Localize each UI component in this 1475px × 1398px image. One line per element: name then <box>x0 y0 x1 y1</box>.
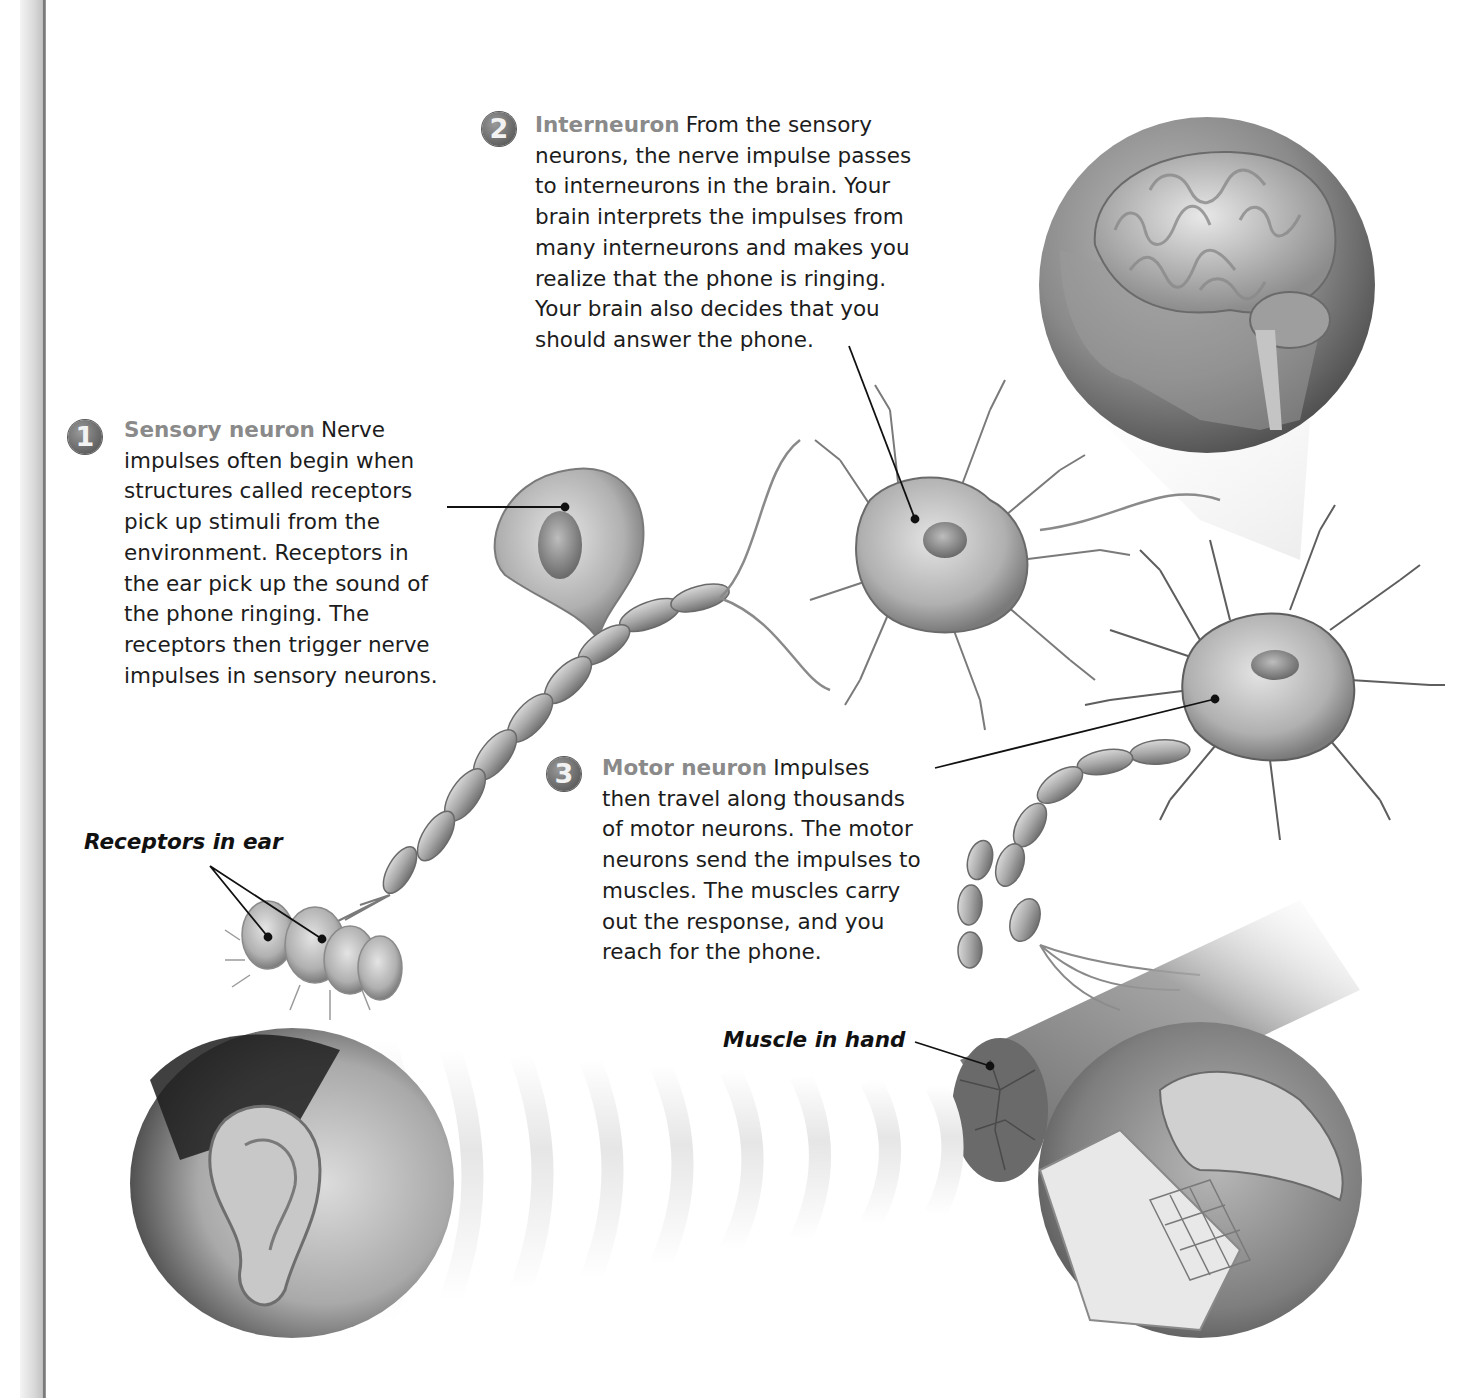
interneuron-first-line: From the sensory <box>686 112 872 137</box>
step-3-badge: 3 <box>547 757 581 791</box>
interneuron-line: should answer the phone. <box>535 325 965 356</box>
receptors-in-ear-label: Receptors in ear <box>84 829 283 854</box>
interneuron-line: many interneurons and makes you <box>535 233 965 264</box>
sensory-first-line: Nerve <box>321 417 385 442</box>
brain-illustration <box>1039 117 1375 560</box>
sensory-line: structures called receptors <box>124 476 464 507</box>
motor-line: neurons send the impulses to <box>602 845 947 876</box>
sensory-line: the ear pick up the sound of <box>124 569 464 600</box>
step-1-badge: 1 <box>68 420 102 454</box>
motor-line: then travel along thousands <box>602 784 947 815</box>
motor-callout-line-1: Motor neuronImpulses <box>602 753 947 784</box>
motor-first-line: Impulses <box>773 755 869 780</box>
sensory-callout-line-1: Sensory neuronNerve <box>124 415 464 446</box>
motor-line: reach for the phone. <box>602 937 947 968</box>
interneuron-term: Interneuron <box>535 112 680 137</box>
ear-receptors-illustration <box>225 901 402 1020</box>
motor-line: of motor neurons. The motor <box>602 814 947 845</box>
interneuron-line: Your brain also decides that you <box>535 294 965 325</box>
interneuron-callout-line-1: InterneuronFrom the sensory <box>535 110 965 141</box>
sensory-line: impulses often begin when <box>124 446 464 477</box>
step-2-badge: 2 <box>482 112 516 146</box>
sensory-line: environment. Receptors in <box>124 538 464 569</box>
sensory-line: receptors then trigger nerve <box>124 630 464 661</box>
motor-neuron-illustration <box>956 505 1445 1010</box>
muscle-in-hand-label: Muscle in hand <box>723 1027 905 1052</box>
sensory-line: impulses in sensory neurons. <box>124 661 464 692</box>
sensory-line: pick up stimuli from the <box>124 507 464 538</box>
sensory-neuron-callout: Sensory neuronNerve impulses often begin… <box>124 415 464 691</box>
interneuron-line: brain interprets the impulses from <box>535 202 965 233</box>
ear-illustration <box>130 1028 454 1338</box>
sound-waves-illustration <box>385 1040 953 1320</box>
motor-neuron-callout: Motor neuronImpulses then travel along t… <box>602 753 947 968</box>
interneuron-line: realize that the phone is ringing. <box>535 264 965 295</box>
sensory-line: the phone ringing. The <box>124 599 464 630</box>
motor-line: muscles. The muscles carry <box>602 876 947 907</box>
motor-neuron-term: Motor neuron <box>602 755 767 780</box>
hand-phone-illustration <box>1038 1022 1362 1338</box>
interneuron-callout: InterneuronFrom the sensory neurons, the… <box>535 110 965 356</box>
sensory-neuron-term: Sensory neuron <box>124 417 315 442</box>
interneuron-line: to interneurons in the brain. Your <box>535 171 965 202</box>
motor-line: out the response, and you <box>602 907 947 938</box>
interneuron-line: neurons, the nerve impulse passes <box>535 141 965 172</box>
